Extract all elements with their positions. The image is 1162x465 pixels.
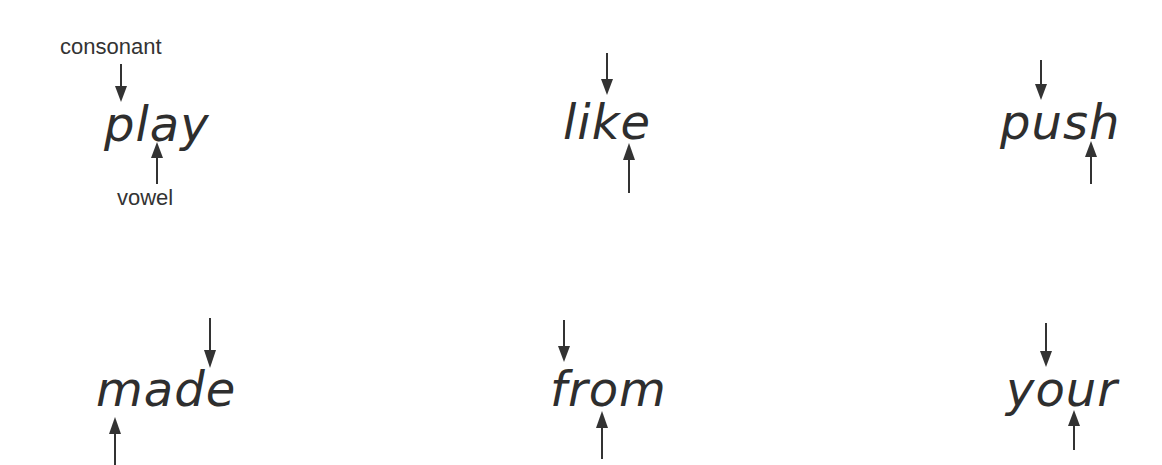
up-arrow-icon	[108, 417, 122, 465]
word-made: made	[96, 365, 236, 413]
word-like: like	[563, 98, 651, 146]
up-arrow-icon	[1067, 410, 1081, 450]
word-from: from	[550, 365, 667, 413]
up-arrow-icon	[1084, 141, 1098, 184]
down-arrow-icon	[557, 320, 571, 362]
vowel-label: vowel	[117, 187, 173, 209]
consonant-label: consonant	[60, 36, 162, 58]
up-arrow-icon	[150, 142, 164, 184]
word-your: your	[1006, 365, 1118, 413]
up-arrow-icon	[595, 411, 609, 459]
up-arrow-icon	[622, 143, 636, 193]
word-push: push	[1000, 98, 1120, 146]
down-arrow-icon	[600, 53, 614, 95]
word-play: play	[104, 100, 210, 148]
